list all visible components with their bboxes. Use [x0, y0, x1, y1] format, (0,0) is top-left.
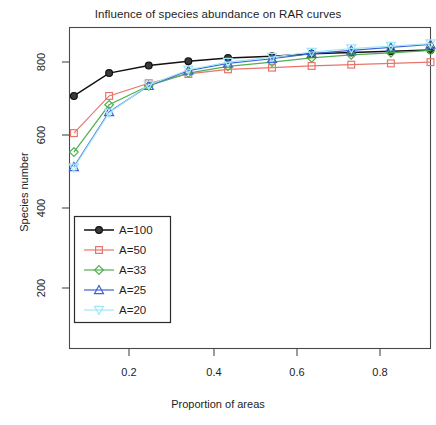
plot-area — [0, 0, 436, 425]
legend-label-2: A=33 — [119, 264, 146, 276]
legend-label-3: A=25 — [119, 284, 146, 296]
data-series-layer — [69, 40, 435, 172]
series-line — [74, 44, 431, 166]
series-line — [74, 44, 431, 168]
x-tick-marks — [129, 349, 380, 357]
series-line — [74, 50, 431, 152]
legend-label-1: A=50 — [119, 244, 146, 256]
data-point-circle — [96, 227, 103, 234]
series-line — [74, 50, 431, 96]
y-tick-marks — [62, 62, 70, 288]
data-point-circle — [145, 62, 152, 69]
legend-label-0: A=100 — [119, 224, 153, 236]
series-A=20 — [69, 40, 435, 172]
data-point-circle — [71, 93, 78, 100]
chart-figure: Influence of species abundance on RAR cu… — [0, 0, 436, 425]
data-point-circle — [185, 58, 192, 65]
legend-label-4: A=20 — [119, 304, 146, 316]
series-line — [74, 62, 431, 133]
data-point-circle — [106, 70, 113, 77]
